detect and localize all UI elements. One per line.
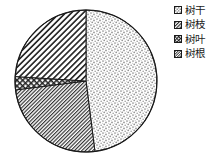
legend-label-shuye: 树叶 [185, 34, 205, 45]
pie-slice-shugan[interactable] [86, 10, 157, 151]
legend-item-shuye[interactable]: 树叶 [174, 32, 217, 47]
legend-item-shugan[interactable]: 树干 [174, 3, 217, 18]
stipple-swatch-icon [174, 6, 182, 14]
legend-label-shugan: 树干 [185, 5, 205, 16]
legend-label-shugen: 树根 [185, 48, 205, 59]
fine-diagonal-swatch-icon [174, 50, 182, 58]
diagonal-hatch-swatch-icon [174, 21, 182, 29]
pie-chart-figure: 树干 树枝 树叶 树根 [0, 0, 217, 163]
cross-hatch-swatch-icon [174, 35, 182, 43]
pie-slice-shugen[interactable] [16, 81, 95, 152]
chart-legend: 树干 树枝 树叶 树根 [174, 3, 217, 61]
legend-item-shugen[interactable]: 树根 [174, 47, 217, 62]
legend-item-shuzhi[interactable]: 树枝 [174, 18, 217, 33]
pie-slices [15, 10, 157, 152]
legend-label-shuzhi: 树枝 [185, 19, 205, 30]
pie-slice-shuzhi[interactable] [15, 10, 86, 81]
